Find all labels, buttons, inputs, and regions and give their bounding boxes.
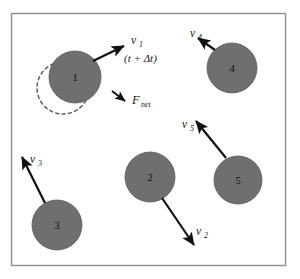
net-force-label-symbol: F	[131, 93, 140, 107]
velocity-label-v4-subscript: 4	[198, 33, 202, 42]
disk-2-label: 2	[147, 172, 152, 183]
velocity-label-v3-symbol: v	[30, 153, 36, 165]
velocity-label-v1-symbol: v	[131, 34, 137, 46]
diagram-canvas: 1 2 3 4 5 v 1 v 2 v 3 v 4 v 5	[0, 0, 300, 279]
velocity-label-v2-subscript: 2	[204, 231, 208, 240]
disk-1-label: 1	[72, 72, 77, 83]
velocity-label-v5-subscript: 5	[190, 124, 194, 133]
velocity-label-v5-symbol: v	[182, 118, 188, 130]
disk-4-label: 4	[229, 63, 235, 74]
time-step-label: (t + Δt)	[124, 52, 157, 65]
velocity-label-v4-symbol: v	[190, 27, 196, 39]
velocity-label-v2-symbol: v	[196, 225, 202, 237]
physics-diagram-figure: 1 2 3 4 5 v 1 v 2 v 3 v 4 v 5	[0, 0, 300, 279]
disk-3-label: 3	[54, 220, 59, 231]
net-force-label-subscript: net	[141, 100, 152, 109]
disk-5-label: 5	[235, 175, 240, 186]
velocity-label-v3-subscript: 3	[37, 159, 42, 168]
velocity-label-v1-subscript: 1	[139, 40, 143, 49]
